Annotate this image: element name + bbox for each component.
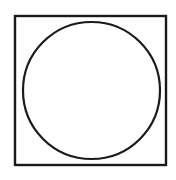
- diagram-svg: [0, 0, 176, 180]
- outer-square: [15, 16, 166, 165]
- diagram-canvas: [0, 0, 176, 180]
- inscribed-circle: [23, 22, 160, 159]
